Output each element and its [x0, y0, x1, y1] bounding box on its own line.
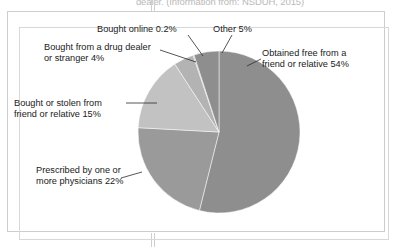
slice-label-obtained-free: Obtained free from a friend or relative …: [262, 48, 349, 71]
slice-label-bought-stolen-line1: Bought or stolen from: [14, 98, 102, 109]
top-caption: dealer. (Information from: NSDUH, 2015): [0, 0, 396, 8]
slice-label-obtained-free-line2: friend or relative 54%: [262, 59, 349, 70]
slice-label-bought-stolen-line2: friend or relative 15%: [14, 109, 102, 120]
slice-label-drug-dealer-line1: Bought from a drug dealer: [44, 42, 151, 53]
page-gutter-rule: [151, 0, 152, 11]
page-gutter-rule: [154, 0, 155, 11]
slice-label-bought-online-text: Bought online 0.2%: [97, 24, 177, 34]
figure-page: dealer. (Information from: NSDUH, 2015) …: [0, 0, 396, 247]
slice-label-drug-dealer: Bought from a drug dealer or stranger 4%: [44, 42, 151, 65]
slice-label-drug-dealer-line2: or stranger 4%: [44, 53, 151, 64]
slice-label-bought-online: Bought online 0.2%: [97, 24, 177, 35]
top-caption-text: dealer. (Information from: NSDUH, 2015): [136, 0, 304, 8]
slice-label-other-text: Other 5%: [213, 24, 252, 34]
pie-chart: [138, 51, 300, 213]
slice-label-prescribed-line2: more physicians 22%: [36, 176, 123, 187]
slice-label-prescribed: Prescribed by one or more physicians 22%: [36, 165, 123, 188]
slice-label-bought-stolen: Bought or stolen from friend or relative…: [14, 98, 102, 121]
pie-chart-svg: [138, 51, 300, 213]
slice-label-other: Other 5%: [213, 24, 252, 35]
slice-label-prescribed-line1: Prescribed by one or: [36, 165, 123, 176]
slice-label-obtained-free-line1: Obtained free from a: [262, 48, 349, 59]
